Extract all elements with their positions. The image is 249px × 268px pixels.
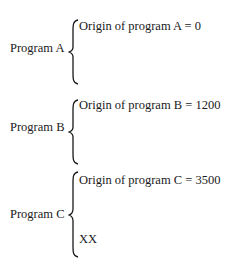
program-c-xx: XX: [79, 233, 97, 246]
program-c-origin: Origin of program C = 3500: [79, 174, 220, 187]
program-c-label: Program C: [10, 208, 65, 221]
program-c-block: Program C Origin of program C = 3500 XX: [0, 0, 249, 268]
